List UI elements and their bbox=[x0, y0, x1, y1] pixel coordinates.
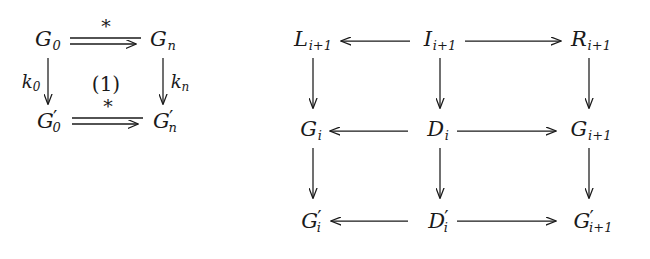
label-star-top: * bbox=[101, 17, 111, 36]
label-kn: kn bbox=[171, 73, 190, 94]
label-star-bottom: * bbox=[103, 97, 113, 116]
node-G0-prime: G′0 bbox=[37, 108, 61, 134]
node-D-i-prime: D′i bbox=[428, 208, 448, 234]
node-Gn-prime: G′n bbox=[153, 108, 177, 134]
label-k0: k0 bbox=[22, 73, 41, 94]
node-G0: G0 bbox=[35, 29, 61, 52]
node-G-i-plus-1: Gi+1 bbox=[571, 119, 612, 142]
node-G-i-prime: G′i bbox=[301, 208, 321, 234]
node-I-i-plus-1: Ii+1 bbox=[424, 29, 456, 52]
node-G-i-plus-1-prime: G′i+1 bbox=[574, 208, 613, 234]
node-Gn: Gn bbox=[150, 29, 176, 52]
node-G-i: Gi bbox=[300, 119, 322, 142]
left-bottom-double-arrow bbox=[72, 118, 143, 124]
node-L-i-plus-1: Li+1 bbox=[294, 29, 332, 52]
node-D-i: Di bbox=[427, 119, 449, 142]
label-region-1: (1) bbox=[92, 74, 120, 94]
commutative-diagram-figure: G0 Gn G′0 G′n * * k0 kn (1) Li+1 Ii+1 Ri… bbox=[0, 0, 650, 259]
node-R-i-plus-1: Ri+1 bbox=[571, 29, 611, 52]
left-top-double-arrow bbox=[70, 38, 141, 44]
